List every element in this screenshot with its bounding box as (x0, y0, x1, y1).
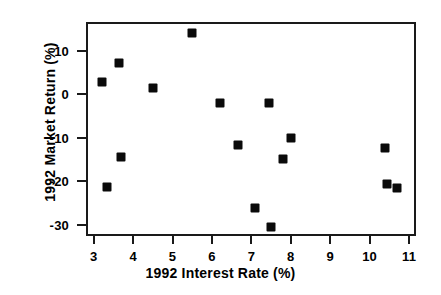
x-axis-tick-label: 7 (236, 250, 266, 263)
data-point (383, 180, 392, 189)
data-point (393, 183, 402, 192)
plot-data-area (86, 22, 416, 236)
x-axis-tick-mark (329, 236, 331, 244)
scatter-plot-figure: 100-10-20-30 34567891011 1992 Market Ret… (0, 0, 441, 295)
x-axis-title: 1992 Interest Rate (%) (0, 265, 441, 281)
data-point (251, 204, 260, 213)
x-axis-tick-label: 5 (158, 250, 188, 263)
data-point (103, 183, 112, 192)
x-axis-tick-mark (93, 236, 95, 244)
data-point (233, 141, 242, 150)
x-axis-tick-mark (408, 236, 410, 244)
data-point (278, 154, 287, 163)
y-axis-title-wrapper: 1992 Market Return (%) (42, 0, 62, 252)
data-point (267, 223, 276, 232)
y-axis-tick-mark (77, 50, 86, 52)
x-axis-tick-mark (211, 236, 213, 244)
y-axis-tick-mark (77, 93, 86, 95)
x-axis-tick-label: 11 (394, 250, 424, 263)
data-point (115, 58, 124, 67)
x-axis-tick-mark (132, 236, 134, 244)
data-point (215, 98, 224, 107)
x-axis-tick-label: 6 (197, 250, 227, 263)
x-axis-tick-label: 9 (315, 250, 345, 263)
x-axis-tick-label: 4 (118, 250, 148, 263)
x-axis-tick-mark (290, 236, 292, 244)
x-axis-tick-label: 8 (276, 250, 306, 263)
x-axis-tick-label: 10 (355, 250, 385, 263)
y-axis-title: 1992 Market Return (%) (42, 0, 58, 252)
data-point (286, 134, 295, 143)
y-axis-tick-mark (77, 137, 86, 139)
y-axis-tick-mark (77, 180, 86, 182)
data-point (381, 143, 390, 152)
data-point (265, 98, 274, 107)
x-axis-tick-mark (369, 236, 371, 244)
data-point (148, 84, 157, 93)
data-point (117, 153, 126, 162)
x-axis-tick-label: 3 (79, 250, 109, 263)
y-axis-tick-mark (77, 224, 86, 226)
data-point (97, 78, 106, 87)
x-axis-tick-mark (172, 236, 174, 244)
data-point (188, 29, 197, 38)
x-axis-tick-mark (250, 236, 252, 244)
